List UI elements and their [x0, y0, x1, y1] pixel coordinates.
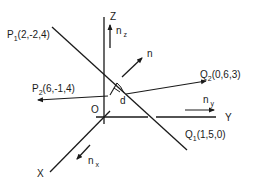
q1-label: Q1(1,5,0) — [185, 129, 226, 142]
z-label: Z — [110, 11, 116, 22]
ny-label: ny — [203, 94, 215, 108]
q2-label: Q2(0,6,3) — [200, 69, 241, 82]
p1-label: P1(2,-2,4) — [7, 29, 50, 42]
y-label: Y — [225, 112, 232, 123]
p2-label: P2(6,-1,4) — [32, 83, 75, 96]
nz-label: nz — [116, 25, 128, 38]
origin-label: O — [91, 104, 99, 115]
nx-label: nx — [88, 155, 100, 168]
n-arrow-icon — [122, 58, 142, 77]
distance-label: d — [120, 95, 126, 106]
n-label: n — [147, 48, 153, 59]
skew-lines-diagram: Z Y X O nz ny nx n d P1(2,-2,4) P2(6,-1,… — [0, 0, 256, 187]
x-axis — [50, 111, 110, 172]
distance-segment — [110, 83, 124, 95]
x-label: X — [37, 168, 44, 179]
line-p2-q2-right — [126, 81, 206, 94]
line-p2-q2-left — [38, 96, 108, 100]
